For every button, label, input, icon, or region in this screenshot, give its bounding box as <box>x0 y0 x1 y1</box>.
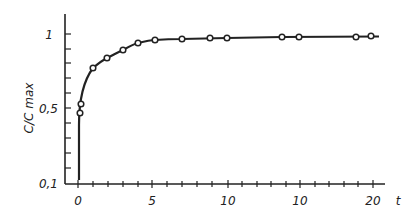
data-point <box>152 37 158 43</box>
data-point <box>90 65 96 71</box>
data-point <box>179 36 185 42</box>
data-point <box>368 33 374 39</box>
y-tick-label-1: 1 <box>45 28 53 42</box>
x-tick-label-10a: 10 <box>220 194 236 208</box>
x-tick-label-0: 0 <box>74 194 82 208</box>
data-point <box>104 55 110 61</box>
data-point <box>120 47 126 53</box>
y-tick-label-0-5: 0,5 <box>39 102 58 116</box>
chart-canvas: 1 0,5 0,1 C/C max 0 5 10 10 20 t <box>0 0 420 217</box>
x-tick-label-5: 5 <box>148 194 156 208</box>
x-tick-label-10b: 10 <box>292 194 308 208</box>
data-point <box>207 35 213 41</box>
data-point <box>78 101 84 107</box>
x-tick-label-20: 20 <box>365 194 381 208</box>
y-tick-label-0-1: 0,1 <box>39 177 58 191</box>
data-curve <box>79 37 379 181</box>
data-point <box>296 34 302 40</box>
data-point <box>224 35 230 41</box>
y-axis-label: C/C max <box>22 82 36 134</box>
data-point <box>77 110 83 116</box>
data-markers <box>77 33 374 116</box>
data-point <box>279 34 285 40</box>
x-axis-label: t <box>396 194 402 208</box>
data-point <box>135 40 141 46</box>
data-point <box>353 34 359 40</box>
y-axis-ticks <box>65 34 71 168</box>
